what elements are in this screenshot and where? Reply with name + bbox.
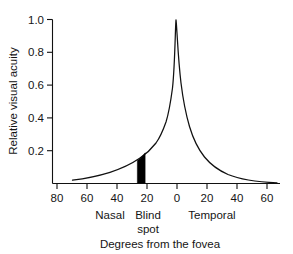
acuity-curve (73, 20, 278, 183)
y-axis-ticks (47, 20, 53, 151)
x-tick-label-5: 20 (201, 192, 214, 204)
annotation-blind-spot-line1: Blind (135, 209, 161, 221)
y-tick-label-2: 0.6 (28, 79, 44, 91)
y-axis-tick-labels: 1.0 0.8 0.6 0.4 0.2 (28, 14, 45, 157)
y-tick-label-0: 1.0 (28, 14, 44, 26)
blind-spot-region (137, 153, 145, 183)
x-axis-title: Degrees from the fovea (100, 238, 221, 250)
annotation-blind-spot-line2: spot (137, 223, 160, 235)
x-tick-label-6: 40 (231, 192, 244, 204)
chart-figure: 1.0 0.8 0.6 0.4 0.2 80 60 40 20 0 20 40 (0, 0, 293, 254)
visual-acuity-line-chart: 1.0 0.8 0.6 0.4 0.2 80 60 40 20 0 20 40 (0, 0, 293, 254)
x-axis-tick-labels: 80 60 40 20 0 20 40 60 (51, 192, 274, 204)
x-tick-label-0: 80 (51, 192, 64, 204)
annotation-nasal: Nasal (95, 209, 124, 221)
y-axis-title: Relative visual acuity (7, 47, 19, 155)
x-tick-label-4: 0 (174, 192, 180, 204)
x-tick-label-1: 60 (81, 192, 94, 204)
y-tick-label-1: 0.8 (28, 46, 44, 58)
annotation-temporal: Temporal (188, 209, 235, 221)
y-tick-label-3: 0.4 (28, 112, 45, 124)
x-tick-label-7: 60 (261, 192, 274, 204)
x-tick-label-2: 40 (111, 192, 124, 204)
x-axis-ticks (57, 184, 267, 190)
x-tick-label-3: 20 (141, 192, 154, 204)
region-annotations: Nasal Blind spot Temporal (95, 209, 235, 235)
y-tick-label-4: 0.2 (28, 145, 44, 157)
